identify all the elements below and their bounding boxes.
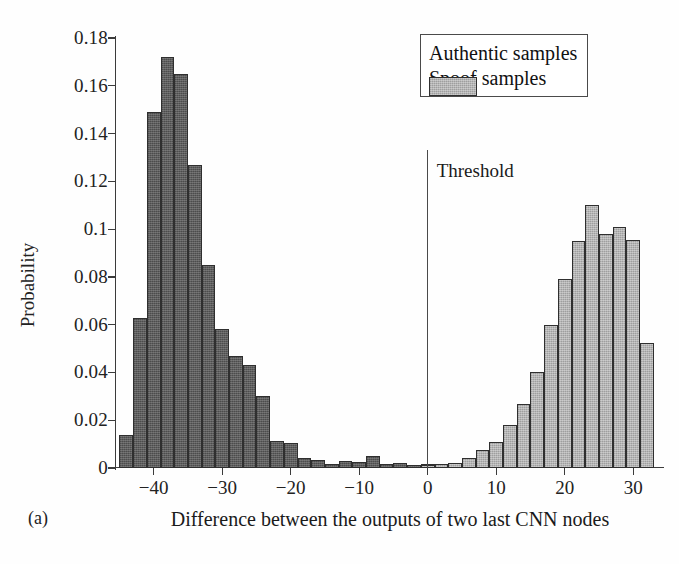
legend-swatch-spoof-icon: [429, 77, 477, 96]
x-tick-mark: [427, 468, 428, 475]
x-tick-mark: [633, 468, 634, 475]
x-tick-label: 0: [398, 477, 458, 498]
x-axis-title: Difference between the outputs of two la…: [116, 508, 664, 531]
histogram-bar: [572, 241, 586, 468]
y-tick-label: 0.14: [52, 124, 108, 143]
histogram-bar: [489, 442, 503, 468]
y-tick-label: 0.1: [52, 219, 108, 238]
y-tick-mark: [108, 420, 116, 421]
x-tick-mark: [153, 468, 154, 475]
x-tick-label: −40: [124, 477, 184, 498]
x-tick-label: 30: [603, 477, 663, 498]
bars-spoof-samples: [116, 38, 664, 468]
legend-item-authentic: Authentic samples: [429, 40, 577, 65]
y-tick-mark: [108, 37, 116, 38]
x-tick-mark: [359, 468, 360, 475]
histogram-bar: [435, 464, 449, 468]
plot-area: [116, 38, 664, 468]
y-tick-mark: [108, 467, 116, 468]
histogram-bar: [544, 325, 558, 468]
y-tick-label: 0.12: [52, 171, 108, 190]
histogram-bar: [613, 227, 627, 468]
x-tick-mark: [222, 468, 223, 475]
histogram-bar: [476, 450, 490, 468]
y-tick-mark: [108, 181, 116, 182]
x-tick-label: −10: [329, 477, 389, 498]
histogram-bar: [626, 240, 640, 468]
x-tick-label: 20: [535, 477, 595, 498]
y-tick-mark: [108, 85, 116, 86]
histogram-bar: [503, 425, 517, 468]
y-tick-label: 0.16: [52, 76, 108, 95]
y-tick-mark: [108, 324, 116, 325]
histogram-bar: [640, 343, 654, 468]
histogram-bar: [517, 404, 531, 469]
histogram-bar: [462, 458, 476, 468]
y-tick-label: 0.02: [52, 410, 108, 429]
legend-item-spoof: Spoof samples: [429, 65, 577, 90]
histogram-bar: [585, 205, 599, 468]
y-tick-label: 0.18: [52, 28, 108, 47]
x-tick-label: 10: [466, 477, 526, 498]
y-tick-mark: [108, 372, 116, 373]
histogram-bar: [599, 234, 613, 468]
legend: Authentic samples Spoof samples: [420, 34, 588, 97]
histogram-figure: 00.020.040.060.080.10.120.140.160.18 −40…: [0, 0, 679, 564]
y-tick-label: 0.04: [52, 362, 108, 381]
y-tick-mark: [108, 133, 116, 134]
threshold-label: Threshold: [437, 160, 514, 182]
panel-tag: (a): [28, 508, 48, 529]
x-tick-mark: [564, 468, 565, 475]
y-tick-label: 0: [52, 458, 108, 477]
histogram-bar: [448, 463, 462, 468]
y-axis-title: Probability: [17, 195, 39, 375]
x-tick-label: −30: [192, 477, 252, 498]
y-tick-mark: [108, 229, 116, 230]
x-tick-mark: [496, 468, 497, 475]
histogram-bar: [530, 372, 544, 468]
y-tick-mark: [108, 276, 116, 277]
x-tick-mark: [290, 468, 291, 475]
histogram-bar: [558, 279, 572, 468]
y-tick-label: 0.06: [52, 315, 108, 334]
threshold-line: [427, 150, 428, 468]
x-tick-label: −20: [261, 477, 321, 498]
legend-label-authentic: Authentic samples: [429, 43, 577, 63]
y-tick-label: 0.08: [52, 267, 108, 286]
